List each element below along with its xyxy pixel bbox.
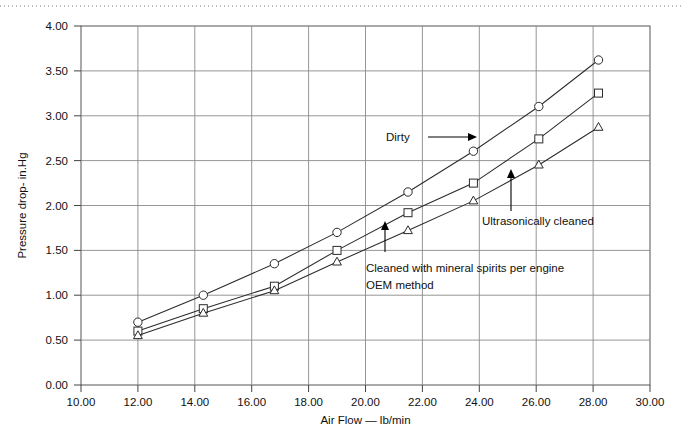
data-point-marker (595, 89, 603, 97)
annotation-mineral-label-line1: Cleaned with mineral spirits per engine (366, 262, 564, 274)
line-chart-svg: 0.00 0.50 1.00 1.50 2.00 2.50 3.00 3.50 … (0, 0, 681, 437)
annotation-mineral-spirits: Cleaned with mineral spirits per engine … (366, 221, 564, 291)
annotation-dirty-label: Dirty (386, 131, 410, 143)
data-point-marker (469, 196, 478, 204)
x-tick-label: 28.00 (579, 396, 608, 408)
arrow-head-right-icon (468, 133, 477, 141)
data-point-marker (469, 179, 477, 187)
x-tick-marks (81, 385, 650, 392)
y-tick-label: 1.50 (46, 244, 68, 256)
chart-figure: 0.00 0.50 1.00 1.50 2.00 2.50 3.00 3.50 … (0, 0, 681, 437)
data-point-marker (594, 123, 603, 131)
x-tick-label: 14.00 (180, 396, 209, 408)
annotation-dirty: Dirty (386, 131, 477, 143)
data-point-marker (404, 188, 412, 196)
data-point-marker (134, 318, 142, 326)
x-tick-label: 30.00 (636, 396, 665, 408)
y-tick-label: 0.00 (46, 379, 68, 391)
x-tick-label: 26.00 (522, 396, 551, 408)
x-tick-label: 10.00 (67, 396, 96, 408)
x-tick-label: 16.00 (237, 396, 266, 408)
x-axis-title: Air Flow — lb/min (320, 414, 410, 426)
y-tick-label: 2.00 (46, 200, 68, 212)
annotation-ultrasonic: Ultrasonically cleaned (482, 169, 594, 227)
y-tick-marks (74, 26, 81, 385)
data-point-marker (535, 102, 543, 110)
data-point-marker (270, 260, 278, 268)
x-tick-label: 24.00 (465, 396, 494, 408)
x-tick-labels: 10.00 12.00 14.00 16.00 18.00 20.00 22.0… (67, 396, 665, 408)
y-tick-label: 3.00 (46, 110, 68, 122)
data-point-marker (534, 160, 543, 168)
y-tick-label: 1.00 (46, 289, 68, 301)
data-point-marker (333, 246, 341, 254)
data-point-marker (333, 228, 341, 236)
arrow-head-up-icon (507, 169, 515, 178)
data-point-marker (594, 56, 602, 64)
y-tick-label: 2.50 (46, 155, 68, 167)
y-axis-title: Pressure drop- in.Hg (16, 152, 28, 258)
x-tick-label: 22.00 (408, 396, 437, 408)
data-point-marker (404, 209, 412, 217)
y-tick-labels: 0.00 0.50 1.00 1.50 2.00 2.50 3.00 3.50 … (46, 20, 68, 391)
y-tick-label: 3.50 (46, 65, 68, 77)
y-tick-label: 4.00 (46, 20, 68, 32)
data-point-marker (469, 147, 477, 155)
annotation-mineral-label-line2: OEM method (366, 279, 434, 291)
x-tick-label: 20.00 (351, 396, 380, 408)
x-tick-label: 18.00 (294, 396, 323, 408)
y-tick-label: 0.50 (46, 334, 68, 346)
data-point-marker (199, 291, 207, 299)
annotation-ultrasonic-label: Ultrasonically cleaned (482, 215, 594, 227)
data-point-marker (535, 135, 543, 143)
x-tick-label: 12.00 (124, 396, 153, 408)
arrow-head-up-icon (381, 221, 389, 230)
